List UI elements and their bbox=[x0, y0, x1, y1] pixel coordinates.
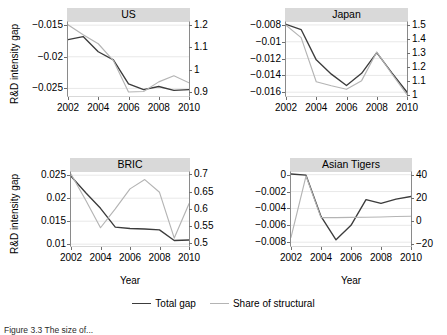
y-tick-label-right: 0.6 bbox=[194, 204, 208, 214]
y-tick-label-left: −0.014 bbox=[250, 70, 281, 80]
x-tick-mark bbox=[377, 97, 378, 100]
legend-line-icon-total-gap bbox=[132, 303, 151, 304]
axis-title-y-bric: R&D intensity gap bbox=[10, 174, 20, 254]
y-tick-mark-left bbox=[282, 59, 285, 60]
legend-item-total-gap: Total gap bbox=[132, 298, 196, 309]
x-tick-mark bbox=[130, 247, 131, 250]
legend-item-share-of-structural: Share of structural bbox=[210, 298, 315, 309]
y-tick-label-left: −0.004 bbox=[255, 203, 286, 213]
x-tick-label: 2010 bbox=[174, 253, 204, 263]
panel-title-us: US bbox=[67, 8, 190, 21]
y-tick-mark-right bbox=[411, 244, 414, 245]
x-tick-label: 2004 bbox=[86, 253, 116, 263]
y-tick-mark-left bbox=[64, 57, 67, 58]
x-tick-label: 2002 bbox=[56, 253, 86, 263]
y-tick-label-left: −0.02 bbox=[38, 52, 63, 62]
x-tick-label: 2010 bbox=[174, 103, 204, 113]
y-tick-label-right: 0.9 bbox=[194, 87, 208, 97]
y-tick-label-right: 1.2 bbox=[194, 20, 208, 30]
x-tick-mark bbox=[160, 247, 161, 250]
legend: Total gap Share of structural bbox=[0, 298, 447, 309]
panel-title-bric: BRIC bbox=[70, 158, 190, 171]
y-tick-mark-right bbox=[189, 25, 192, 26]
legend-line-icon-share-of-structural bbox=[210, 303, 229, 304]
x-tick-mark bbox=[411, 247, 412, 250]
plot-area-asian-tigers bbox=[290, 171, 412, 247]
y-tick-label-right: 0.55 bbox=[194, 221, 213, 231]
x-tick-label: 2010 bbox=[396, 253, 426, 263]
y-tick-mark-left bbox=[67, 244, 70, 245]
x-tick-label: 2008 bbox=[144, 103, 174, 113]
x-tick-mark bbox=[351, 247, 352, 250]
y-tick-mark-left bbox=[287, 192, 290, 193]
x-tick-mark bbox=[347, 97, 348, 100]
y-tick-mark-right bbox=[407, 53, 410, 54]
y-tick-mark-right bbox=[189, 92, 192, 93]
plot-area-bric bbox=[70, 171, 190, 247]
y-tick-mark-left bbox=[287, 175, 290, 176]
x-tick-mark bbox=[381, 247, 382, 250]
y-tick-mark-right bbox=[407, 25, 410, 26]
axis-title-x-asian-tigers: Year bbox=[290, 276, 412, 286]
plot-svg-japan bbox=[286, 22, 407, 96]
x-tick-mark bbox=[321, 247, 322, 250]
y-tick-mark-right bbox=[189, 226, 192, 227]
y-tick-mark-left bbox=[287, 208, 290, 209]
y-tick-mark-left bbox=[64, 88, 67, 89]
y-tick-label-right: 1.5 bbox=[412, 20, 426, 30]
y-tick-label-left: −0.016 bbox=[250, 87, 281, 97]
y-tick-mark-right bbox=[411, 221, 414, 222]
y-tick-label-left: −0.015 bbox=[32, 20, 63, 30]
x-tick-label: 2006 bbox=[115, 253, 145, 263]
y-tick-mark-left bbox=[64, 25, 67, 26]
plot-svg-asian-tigers bbox=[291, 172, 411, 246]
figure-caption: Figure 3.3 The size of... bbox=[4, 325, 304, 335]
y-tick-mark-right bbox=[407, 67, 410, 68]
x-tick-label: 2006 bbox=[332, 103, 362, 113]
y-tick-mark-right bbox=[411, 175, 414, 176]
y-tick-mark-left bbox=[67, 198, 70, 199]
x-tick-label: 2004 bbox=[306, 253, 336, 263]
x-tick-label: 2010 bbox=[392, 103, 422, 113]
x-tick-label: 2004 bbox=[301, 103, 331, 113]
panel-title-japan: Japan bbox=[285, 8, 408, 21]
legend-label-total-gap: Total gap bbox=[155, 298, 196, 309]
x-tick-label: 2004 bbox=[83, 103, 113, 113]
chart-panel-japan: Japan −0.008−0.01−0.012−0.014−0.0161.51.… bbox=[230, 0, 447, 150]
y-tick-mark-left bbox=[67, 221, 70, 222]
x-tick-mark bbox=[189, 247, 190, 250]
y-tick-mark-right bbox=[407, 39, 410, 40]
panel-title-asian-tigers: Asian Tigers bbox=[290, 158, 412, 171]
y-tick-mark-left bbox=[67, 175, 70, 176]
y-tick-mark-right bbox=[189, 174, 192, 175]
plot-svg-bric bbox=[71, 172, 189, 246]
x-tick-mark bbox=[159, 97, 160, 100]
plot-area-japan bbox=[285, 21, 408, 97]
x-tick-mark bbox=[407, 97, 408, 100]
y-tick-mark-right bbox=[407, 81, 410, 82]
y-tick-mark-left bbox=[287, 225, 290, 226]
x-tick-label: 2006 bbox=[114, 103, 144, 113]
figure-root: US R&D intensity gap −0.015−0.02−0.0251.… bbox=[0, 0, 447, 335]
x-tick-mark bbox=[71, 247, 72, 250]
y-tick-mark-right bbox=[411, 198, 414, 199]
x-tick-label: 2002 bbox=[276, 253, 306, 263]
x-tick-label: 2008 bbox=[362, 103, 392, 113]
y-tick-label-left: 0.02 bbox=[47, 193, 66, 203]
x-tick-label: 2002 bbox=[271, 103, 301, 113]
y-tick-mark-right bbox=[189, 243, 192, 244]
y-tick-label-right: 0.7 bbox=[194, 169, 208, 179]
y-tick-label-right: 0.5 bbox=[194, 238, 208, 248]
y-tick-label-right: 1.1 bbox=[412, 76, 426, 86]
y-tick-label-left: −0.012 bbox=[250, 54, 281, 64]
axis-title-y-us: R&D intensity gap bbox=[10, 24, 20, 104]
x-tick-mark bbox=[98, 97, 99, 100]
y-tick-label-left: 0.015 bbox=[41, 216, 66, 226]
x-tick-mark bbox=[316, 97, 317, 100]
y-tick-label-right: 40 bbox=[416, 170, 427, 180]
y-tick-label-left: −0.008 bbox=[250, 20, 281, 30]
y-tick-label-left: −0.002 bbox=[255, 187, 286, 197]
y-tick-label-right: 1.3 bbox=[412, 48, 426, 58]
x-tick-mark bbox=[68, 97, 69, 100]
y-tick-label-right: 1.1 bbox=[194, 42, 208, 52]
